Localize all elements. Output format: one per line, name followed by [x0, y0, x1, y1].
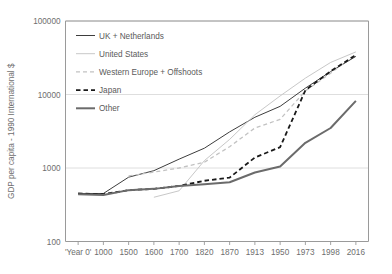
legend-label-3: Japan [99, 86, 122, 95]
x-tick-label-4: 1700 [170, 248, 189, 257]
gdp-per-capita-line-chart: 100000100001000100'Year 0'10001500160017… [0, 0, 392, 274]
legend-label-0: UK + Netherlands [99, 32, 164, 41]
x-tick-label-11: 2016 [347, 248, 366, 257]
legend-label-1: United States [99, 50, 148, 59]
y-axis-title: GDP per capita - 1990 International $ [7, 63, 16, 199]
series-line-other [78, 101, 356, 195]
x-tick-label-1: 1000 [94, 248, 113, 257]
y-tick-label-100000: 100000 [33, 17, 61, 26]
x-tick-label-10: 1998 [322, 248, 341, 257]
y-tick-label-10000: 10000 [38, 91, 61, 100]
legend-label-2: Western Europe + Offshoots [99, 68, 202, 77]
x-tick-label-5: 1820 [195, 248, 214, 257]
x-tick-label-3: 1600 [145, 248, 164, 257]
x-tick-label-9: 1973 [296, 248, 315, 257]
y-tick-label-100: 100 [47, 238, 61, 247]
x-tick-label-6: 1870 [221, 248, 240, 257]
x-tick-label-2: 1500 [120, 248, 139, 257]
x-tick-label-0: 'Year 0' [65, 248, 92, 257]
x-tick-label-8: 1950 [271, 248, 290, 257]
series-line-uk-netherlands [78, 56, 356, 193]
legend-label-4: Other [99, 104, 120, 113]
y-tick-label-1000: 1000 [42, 164, 61, 173]
x-tick-label-7: 1913 [246, 248, 265, 257]
chart-container: 100000100001000100'Year 0'10001500160017… [0, 0, 392, 274]
